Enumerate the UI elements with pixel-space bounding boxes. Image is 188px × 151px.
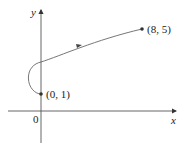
origin-label: 0 (33, 113, 39, 125)
end-point (140, 27, 144, 31)
y-axis-label: y (30, 6, 36, 18)
parametric-curve (28, 29, 142, 94)
start-point (39, 92, 43, 96)
start-point-label: (0, 1) (46, 88, 70, 101)
parametric-curve-diagram: y x 0 (0, 1) (8, 5) (0, 0, 188, 151)
end-point-label: (8, 5) (147, 23, 171, 36)
x-axis-label: x (170, 114, 176, 126)
